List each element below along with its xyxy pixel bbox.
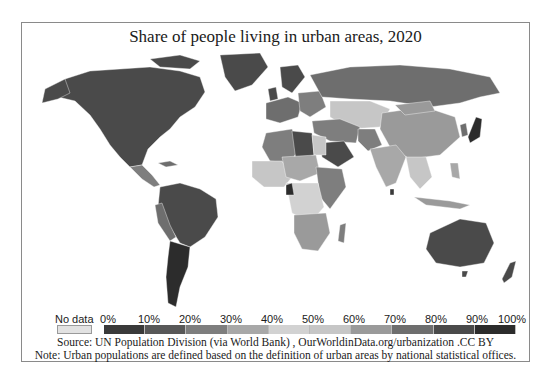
legend-bin [104, 325, 145, 334]
legend-bin [392, 325, 433, 334]
legend-bin [351, 325, 392, 334]
legend-tick: 80% [425, 313, 447, 325]
chart-frame: Share of people living in urban areas, 2… [21, 22, 530, 362]
region-sri-lanka [390, 189, 394, 195]
legend-bin [475, 325, 516, 334]
region-central-america [130, 165, 160, 187]
region-indonesia [414, 197, 470, 209]
legend-no-data-label: No data [55, 313, 94, 325]
legend-color-scale [104, 325, 516, 334]
region-india [370, 145, 406, 187]
region-korea [460, 123, 468, 137]
region-caribbean [158, 161, 178, 167]
region-egypt [312, 135, 326, 155]
region-alaska [42, 79, 70, 103]
legend-tick: 70% [384, 313, 406, 325]
legend-no-data-swatch [57, 325, 92, 334]
legend-tick: 100% [498, 313, 526, 325]
region-western-europe [266, 97, 302, 123]
source-text: Source: UN Population Division (via Worl… [22, 336, 529, 348]
legend-bin [269, 325, 310, 334]
legend-bin [145, 325, 186, 334]
region-southern-africa [294, 213, 330, 251]
legend-bin [186, 325, 227, 334]
region-madagascar [338, 223, 346, 243]
legend-tick: 30% [220, 313, 242, 325]
legend-tick: 90% [466, 313, 488, 325]
region-argentina [166, 241, 190, 307]
region-japan [468, 117, 482, 143]
region-north-america [58, 67, 205, 167]
legend-tick: 60% [343, 313, 365, 325]
world-map [30, 37, 525, 327]
region-philippines [450, 163, 460, 179]
region-scandinavia [280, 65, 305, 93]
legend-tick: 50% [302, 313, 324, 325]
region-arctic-islands [150, 55, 200, 69]
region-tasmania [462, 271, 468, 277]
legend-tick: 20% [179, 313, 201, 325]
region-sahel [282, 155, 320, 181]
region-russia [310, 65, 500, 107]
note-text: Note: Urban populations are defined base… [22, 349, 529, 361]
legend-bin [434, 325, 475, 334]
region-south-america-north [158, 183, 218, 247]
region-uk [268, 87, 278, 101]
legend-bin [228, 325, 269, 334]
region-southeast-asia [406, 157, 432, 189]
region-new-zealand [502, 261, 516, 283]
region-australia [426, 219, 494, 267]
region-greenland [220, 53, 268, 91]
legend-tick: 10% [138, 313, 160, 325]
color-legend: No data 0% 10% 20% 30% 40% 50% 60% 70% 8… [22, 313, 531, 335]
legend-tick: 0% [100, 313, 116, 325]
legend-tick: 40% [261, 313, 283, 325]
legend-bin [310, 325, 351, 334]
